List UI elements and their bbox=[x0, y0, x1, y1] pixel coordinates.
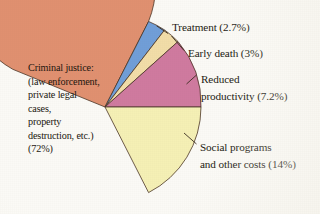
label-early-death: Early death (3%) bbox=[188, 47, 263, 60]
pie-chart-svg: Criminal justice: (law enforcement, priv… bbox=[0, 0, 320, 214]
label-early-death-text: Early death (3%) bbox=[188, 47, 263, 60]
label-social-programs-line-1: Social programs bbox=[200, 141, 272, 153]
pie-chart-figure: Criminal justice: (law enforcement, priv… bbox=[0, 0, 320, 214]
label-criminal-justice-line-1: Criminal justice: bbox=[28, 62, 94, 73]
label-criminal-justice-line-5: property bbox=[28, 116, 62, 127]
label-criminal-justice-line-4: cases, bbox=[28, 103, 51, 114]
label-criminal-justice-line-6: destruction, etc.) bbox=[28, 130, 93, 142]
label-treatment-text: Treatment (2.7%) bbox=[172, 21, 250, 34]
label-social-programs-line-2: and other costs (14%) bbox=[200, 158, 296, 171]
label-reduced-productivity-line-1: Reduced bbox=[201, 73, 240, 85]
label-criminal-justice-line-3: private legal bbox=[28, 89, 77, 100]
label-treatment: Treatment (2.7%) bbox=[172, 21, 250, 34]
label-criminal-justice-line-7: (72%) bbox=[28, 143, 53, 155]
label-criminal-justice-line-2: (law enforcement, bbox=[28, 76, 100, 88]
label-reduced-productivity-line-2: productivity (7.2%) bbox=[201, 90, 288, 103]
